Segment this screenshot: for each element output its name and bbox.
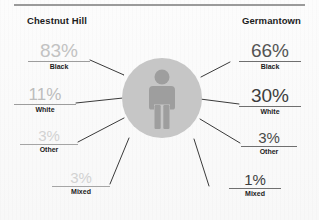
- stat-underline: [28, 61, 90, 62]
- stat-germantown-white: 30% White: [239, 86, 301, 117]
- stat-percent: 66%: [239, 41, 301, 60]
- person-figure-icon: [122, 58, 202, 138]
- connector-right-mixed: [194, 139, 209, 186]
- stat-germantown-mixed: 1% Mixed: [229, 172, 281, 199]
- connector-right-other: [200, 119, 240, 143]
- stat-underline: [20, 144, 78, 145]
- stat-percent: 1%: [229, 172, 281, 187]
- stat-category: White: [239, 108, 301, 117]
- stat-percent: 83%: [28, 41, 90, 60]
- stat-underline: [229, 188, 281, 189]
- stat-chestnut-hill-other: 3% Other: [20, 128, 78, 155]
- stat-chestnut-hill-mixed: 3% Mixed: [52, 170, 110, 197]
- stat-percent: 30%: [239, 86, 301, 105]
- column-heading-chestnut-hill: Chestnut Hill: [27, 15, 87, 26]
- stat-underline: [239, 106, 301, 107]
- stat-percent: 3%: [241, 130, 297, 145]
- stat-category: Other: [241, 148, 297, 157]
- connector-left-other: [78, 118, 124, 142]
- stat-category: White: [14, 106, 76, 115]
- stat-percent: 11%: [14, 86, 76, 103]
- stat-category: Other: [20, 146, 78, 155]
- stat-category: Black: [28, 63, 90, 72]
- stat-germantown-black: 66% Black: [239, 41, 301, 72]
- stat-percent: 3%: [20, 128, 78, 143]
- stat-chestnut-hill-white: 11% White: [14, 86, 76, 115]
- connector-right-black: [201, 62, 230, 77]
- connector-left-mixed: [110, 138, 129, 184]
- column-heading-germantown: Germantown: [242, 15, 301, 26]
- stat-category: Mixed: [52, 188, 110, 197]
- connector-left-white: [76, 98, 123, 103]
- stat-underline: [241, 146, 297, 147]
- stat-underline: [14, 104, 76, 105]
- stat-category: Mixed: [229, 190, 281, 199]
- stat-chestnut-hill-black: 83% Black: [28, 41, 90, 72]
- infographic-root: Chestnut Hill Germantown 83% Black: [0, 0, 319, 220]
- stat-underline: [239, 61, 301, 62]
- stat-underline: [52, 186, 110, 187]
- connector-left-black: [90, 60, 124, 75]
- stat-germantown-other: 3% Other: [241, 130, 297, 157]
- stat-percent: 3%: [52, 170, 110, 185]
- stat-category: Black: [239, 63, 301, 72]
- connector-right-white: [200, 99, 239, 104]
- top-divider-rule: [14, 4, 305, 6]
